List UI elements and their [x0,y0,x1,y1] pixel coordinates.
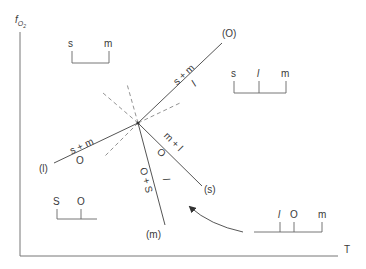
dashed-line-o-extension [104,123,138,157]
reaction-line-l [54,123,138,163]
chemography-bottom-right-l: l [278,209,281,220]
reaction-label-O: (O) [222,28,236,39]
chemography-bottom-left-S: S [53,196,60,207]
axes: fO2 T [15,14,350,256]
chemography-top-left-m: m [104,38,112,49]
dashed-line-s-extension [103,93,138,123]
reaction-m-lower: O + S [138,166,155,194]
chemography-right-s: s [231,68,236,79]
dashed-line-m-extension [127,84,138,123]
chemography-top-left-s: s [68,38,73,49]
reaction-l-lower: O [76,155,84,166]
reaction-l-upper: s + m [68,136,95,156]
reaction-label-m: (m) [146,229,161,240]
y-axis-label: fO2 [15,14,26,29]
chemography-bottom-right-m: m [318,209,326,220]
chemography-bottom-right-O: O [290,209,298,220]
reaction-label-s: (s) [204,184,216,195]
chemography-right-m: m [281,68,289,79]
invariant-point [136,121,139,124]
metastable-extensions [103,84,180,157]
phase-diagram: fO2 T (O) (l) (s) (m) s + m l s + m O m … [0,0,366,269]
chemography-bottom-left [57,209,97,219]
chemography-bottom-left-O: O [77,196,85,207]
dashed-line-l-extension [138,103,180,123]
reaction-m-upper: l [161,177,172,183]
chemography-right [234,81,286,93]
chemography-top-left [72,51,109,63]
chemography-bottom-right [254,222,322,232]
reaction-O-lower: l [189,78,199,88]
reaction-s-lower: O [155,146,168,159]
chemography-right-l: l [257,68,260,79]
reaction-label-l: (l) [39,163,48,174]
x-axis-label: T [344,244,350,255]
curved-arrow-icon [190,207,243,232]
